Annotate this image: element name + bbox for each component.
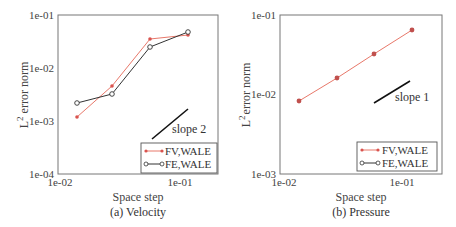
pressure-chart-panel: 1e-01 1e-02 1e-03 1e-02 1e-01 Space step…: [228, 0, 456, 227]
velocity-chart-panel: 1e-01 1e-02 1e-03 1e-04 1e-02 1e-01 Spac…: [0, 0, 228, 227]
legend: FV,WALE FE,WALE: [141, 143, 217, 173]
x-tick-label: 1e-02: [271, 176, 296, 188]
y-axis-label-sup: 2: [15, 116, 25, 121]
legend-label-fv: FV,WALE: [165, 145, 211, 157]
y-tick-label: 1e-03: [29, 115, 55, 127]
y-axis-label-base: L: [17, 121, 31, 128]
legend: FV,WALE FE,WALE: [357, 142, 437, 171]
y-axis-label-base: L: [239, 120, 253, 127]
x-axis-label: Space step: [113, 190, 164, 204]
caption: (a) Velocity: [110, 205, 166, 219]
y-tick-label: 1e-02: [251, 88, 276, 100]
series-fe-markers: [75, 30, 191, 106]
y-axis-label-rest: error norm: [239, 62, 253, 114]
y-tick-label: 1e-02: [29, 62, 54, 74]
y-axis-label: L2error norm: [237, 62, 253, 127]
x-tick-label: 1e-01: [167, 176, 192, 188]
series-fv-markers: [75, 33, 190, 119]
x-tick-label: 1e-02: [47, 176, 72, 188]
legend-label-fv: FV,WALE: [382, 144, 428, 156]
x-tick-label: 1e-01: [389, 176, 414, 188]
pressure-chart: 1e-01 1e-02 1e-03 1e-02 1e-01 Space step…: [228, 0, 456, 227]
y-axis-label-sup: 2: [237, 115, 247, 120]
caption: (b) Pressure: [332, 205, 390, 219]
series-fe-line: [77, 32, 188, 103]
slope-annotation: slope 2: [172, 122, 206, 136]
y-tick-label: 1e-01: [251, 9, 276, 21]
y-tick-label: 1e-01: [29, 9, 54, 21]
velocity-chart: 1e-01 1e-02 1e-03 1e-04 1e-02 1e-01 Spac…: [0, 0, 228, 227]
slope-annotation: slope 1: [395, 90, 429, 104]
legend-label-fe: FE,WALE: [382, 157, 428, 169]
y-axis-label-rest: error norm: [17, 61, 31, 113]
series-fv-line: [77, 35, 188, 117]
x-axis-label: Space step: [336, 190, 387, 204]
svg-text:L2error norm: L2error norm: [237, 62, 253, 127]
legend-label-fe: FE,WALE: [165, 158, 211, 170]
